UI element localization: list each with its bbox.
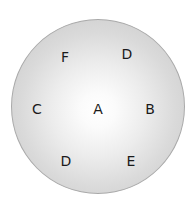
label-d-top: D xyxy=(117,46,137,62)
label-e: E xyxy=(121,153,141,169)
label-c: C xyxy=(27,101,47,117)
label-f: F xyxy=(55,49,75,65)
label-a-center: A xyxy=(88,101,108,117)
label-d-bottom: D xyxy=(56,153,76,169)
label-b: B xyxy=(140,101,160,117)
